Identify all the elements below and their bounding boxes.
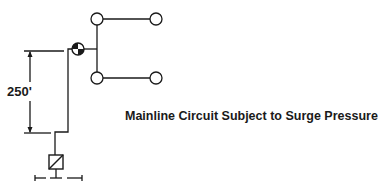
dimension-arrow-up-icon [28,51,33,57]
diagram-caption: Mainline Circuit Subject to Surge Pressu… [125,109,378,123]
control-valve-icon [72,43,84,55]
dimension-arrow-down-icon [28,127,33,133]
sprinkler-head-icon [91,13,103,25]
dimension-label: 250' [7,84,32,99]
mainline-pipe [55,49,72,155]
backflow-device-icon [49,155,63,169]
sprinkler-head-icon [91,72,103,84]
sprinkler-head-icon [150,72,162,84]
sprinkler-head-icon [150,13,162,25]
